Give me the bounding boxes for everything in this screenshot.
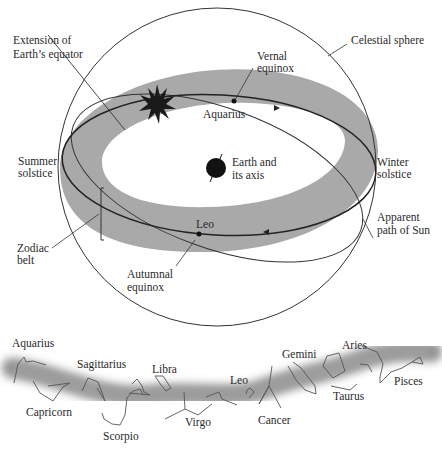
svg-text:Pisces: Pisces <box>394 375 423 387</box>
label-summer-2: solstice <box>18 167 53 179</box>
label-zodiac-2: belt <box>17 254 35 266</box>
svg-text:Capricorn: Capricorn <box>26 406 72 419</box>
label-earth-2: its axis <box>232 169 265 181</box>
svg-text:solstice: solstice <box>18 167 53 179</box>
svg-text:Summer: Summer <box>18 155 57 167</box>
svg-text:path of Sun: path of Sun <box>377 224 430 237</box>
zodiac-label-virgo: Virgo <box>185 416 211 429</box>
label-autumnal-1: Autumnal <box>127 268 173 280</box>
path-arrow-top <box>274 105 280 111</box>
label-vernal-1: Vernal <box>257 50 287 62</box>
earth-icon <box>206 154 226 182</box>
label-extension-2: Earth’s equator <box>13 48 83 61</box>
svg-text:its axis: its axis <box>232 169 265 181</box>
zodiac-label-pisces: Pisces <box>394 375 423 387</box>
svg-text:Winter: Winter <box>377 156 409 168</box>
zodiac-label-capricorn: Capricorn <box>26 406 72 419</box>
label-extension-1: Extension of <box>13 34 72 46</box>
zodiac-label-aries: Aries <box>342 339 367 351</box>
autumnal-equinox-dot <box>197 232 202 237</box>
svg-text:Earth and: Earth and <box>232 156 277 168</box>
svg-text:Libra: Libra <box>152 363 177 375</box>
svg-text:Taurus: Taurus <box>333 390 365 402</box>
label-autumnal-2: equinox <box>127 281 164 294</box>
zodiac-strip: Aquarius Capricorn Sagittarius Scorpio L… <box>12 337 432 443</box>
svg-text:equinox: equinox <box>257 62 294 75</box>
svg-text:Leo: Leo <box>230 374 248 386</box>
zodiac-label-leo: Leo <box>230 374 248 386</box>
zodiac-label-sagittarius: Sagittarius <box>77 358 127 371</box>
label-winter-1: Winter <box>377 156 409 168</box>
svg-text:Cancer: Cancer <box>258 414 291 426</box>
svg-text:Vernal: Vernal <box>257 50 287 62</box>
label-apparent-1: Apparent <box>377 211 421 224</box>
zodiac-label-scorpio: Scorpio <box>103 430 139 443</box>
svg-text:equinox: equinox <box>127 281 164 294</box>
zodiac-label-taurus: Taurus <box>333 390 365 402</box>
svg-text:Leo: Leo <box>196 218 214 230</box>
svg-text:belt: belt <box>17 254 35 266</box>
label-aquarius-top: Aquarius <box>203 108 246 121</box>
label-winter-2: solstice <box>377 168 412 180</box>
svg-text:Aquarius: Aquarius <box>12 337 55 350</box>
svg-text:Autumnal: Autumnal <box>127 268 173 280</box>
svg-text:Extension of: Extension of <box>13 34 72 46</box>
celestial-sphere-diagram: Extension of Earth’s equator Vernal equi… <box>0 0 442 451</box>
svg-text:Virgo: Virgo <box>185 416 211 429</box>
svg-text:Celestial sphere: Celestial sphere <box>351 34 424 47</box>
label-apparent-2: path of Sun <box>377 224 430 237</box>
label-leo-top: Leo <box>196 218 214 230</box>
zodiac-label-cancer: Cancer <box>258 414 291 426</box>
svg-text:Zodiac: Zodiac <box>17 242 49 254</box>
label-zodiac-1: Zodiac <box>17 242 49 254</box>
label-summer-1: Summer <box>18 155 57 167</box>
zodiac-label-libra: Libra <box>152 363 177 375</box>
svg-text:Apparent: Apparent <box>377 211 421 224</box>
svg-text:Earth’s equator: Earth’s equator <box>13 48 83 61</box>
zodiac-label-aquarius: Aquarius <box>12 337 55 350</box>
label-earth-1: Earth and <box>232 156 277 168</box>
svg-text:Sagittarius: Sagittarius <box>77 358 127 371</box>
zodiac-label-gemini: Gemini <box>282 348 317 360</box>
svg-text:Gemini: Gemini <box>282 348 317 360</box>
label-celestial-sphere: Celestial sphere <box>351 34 424 47</box>
svg-text:Aquarius: Aquarius <box>203 108 246 121</box>
svg-text:Aries: Aries <box>342 339 367 351</box>
label-vernal-2: equinox <box>257 62 294 75</box>
svg-text:Scorpio: Scorpio <box>103 430 139 443</box>
svg-text:solstice: solstice <box>377 168 412 180</box>
